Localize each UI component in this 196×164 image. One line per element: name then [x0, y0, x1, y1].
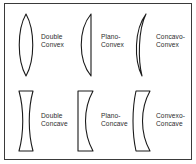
label-line-1: Plano- [101, 112, 128, 120]
label-line-1: Double [41, 33, 64, 41]
lens-cell-concavo-convex: Concavo- Convex [131, 10, 191, 80]
label-line-1: Double [41, 112, 68, 120]
label-line-2: Concave [101, 120, 128, 128]
lens-cell-plano-convex: Plano- Convex [73, 10, 131, 80]
lens-types-figure: Double Convex Plano- Convex Concavo- Con… [0, 0, 196, 164]
lens-cell-double-concave: Double Concave [13, 88, 71, 156]
lens-cell-double-convex: Double Convex [13, 10, 71, 80]
double-concave-lens-icon [15, 89, 39, 153]
label-line-1: Concavo- [156, 33, 185, 41]
lens-cell-plano-concave: Plano- Concave [73, 88, 131, 156]
double-convex-lens-icon [13, 12, 39, 78]
label-line-2: Concave [41, 120, 68, 128]
plano-convex-lens-icon [74, 12, 96, 78]
label-line-2: Convex [156, 41, 185, 49]
label-line-2: Convex [101, 41, 124, 49]
label-line-1: Convexo- [156, 112, 185, 120]
label-double-convex: Double Convex [41, 33, 64, 49]
label-plano-concave: Plano- Concave [101, 112, 128, 128]
concavo-convex-lens-icon [131, 12, 153, 78]
plano-concave-lens-icon [74, 89, 98, 153]
label-double-concave: Double Concave [41, 112, 68, 128]
figure-frame: Double Convex Plano- Convex Concavo- Con… [4, 3, 192, 160]
label-line-2: Concave [156, 120, 185, 128]
label-concavo-convex: Concavo- Convex [156, 33, 185, 49]
label-convexo-concave: Convexo- Concave [156, 112, 185, 128]
lens-cell-convexo-concave: Convexo- Concave [131, 88, 191, 156]
label-line-1: Plano- [101, 33, 124, 41]
label-plano-convex: Plano- Convex [101, 33, 124, 49]
convexo-concave-lens-icon [131, 89, 155, 153]
label-line-2: Convex [41, 41, 64, 49]
